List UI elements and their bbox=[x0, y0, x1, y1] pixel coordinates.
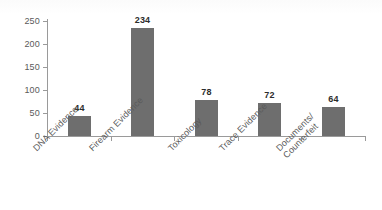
y-axis-tick-label: 100 bbox=[16, 85, 40, 95]
x-tick-mark bbox=[111, 136, 112, 141]
scan-artifact-bottom bbox=[0, 200, 382, 210]
bar-documents-counterfeit bbox=[322, 107, 345, 136]
y-axis-tick-label: 50 bbox=[16, 108, 40, 118]
bar-value-label: 78 bbox=[186, 87, 227, 97]
bar-chart: 250 200 150 100 50 0 44 234 78 72 64 DNA… bbox=[0, 0, 382, 210]
y-tick-mark bbox=[43, 90, 47, 91]
y-axis-tick-label: 250 bbox=[16, 16, 40, 26]
y-axis-tick-label: 200 bbox=[16, 39, 40, 49]
y-tick-mark bbox=[43, 67, 47, 68]
x-tick-mark bbox=[365, 136, 366, 141]
y-tick-mark bbox=[43, 113, 47, 114]
y-tick-mark bbox=[43, 21, 47, 22]
bar-value-label: 64 bbox=[313, 94, 354, 104]
y-tick-mark bbox=[43, 44, 47, 45]
bar-value-label: 234 bbox=[122, 15, 163, 25]
y-axis-line bbox=[47, 19, 48, 137]
y-axis-tick-label: 150 bbox=[16, 62, 40, 72]
bar-value-label: 72 bbox=[249, 90, 290, 100]
bar-firearm-evidence bbox=[131, 28, 154, 136]
scan-artifact-top bbox=[0, 0, 382, 14]
